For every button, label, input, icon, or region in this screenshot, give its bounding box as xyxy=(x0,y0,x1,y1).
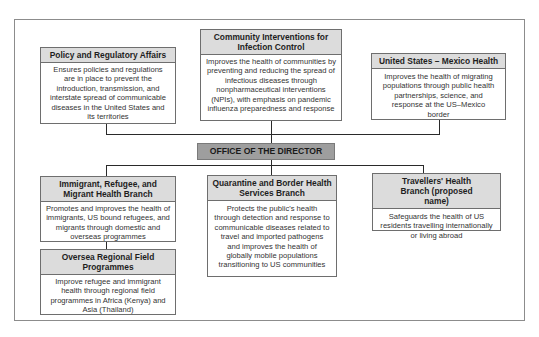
unit-title: Community Interventions for Infection Co… xyxy=(201,30,341,55)
connector-top-horizontal xyxy=(106,134,440,135)
unit-title: Policy and Regulatory Affairs xyxy=(41,48,175,63)
unit-title: Travellers' Health Branch (proposed name… xyxy=(373,174,500,209)
unit-quarantine-border-health: Quarantine and Border Health Services Br… xyxy=(207,175,337,277)
unit-policy-regulatory-affairs: Policy and Regulatory Affairs Ensures po… xyxy=(40,47,176,124)
unit-community-interventions: Community Interventions for Infection Co… xyxy=(200,29,342,121)
unit-description: Ensures policies and regulations are in … xyxy=(41,63,175,123)
connector-bottom-horizontal xyxy=(106,165,423,166)
unit-description: Improves the health of communities by pr… xyxy=(201,55,341,115)
unit-description: Promotes and improves the health of immi… xyxy=(41,202,175,244)
unit-us-mexico-health: United States – Mexico Health Improves t… xyxy=(371,53,506,120)
unit-title: Quarantine and Border Health Services Br… xyxy=(208,176,336,201)
unit-travellers-health: Travellers' Health Branch (proposed name… xyxy=(372,173,501,231)
unit-immigrant-refugee-migrant-health: Immigrant, Refugee, and Migrant Health B… xyxy=(40,176,176,242)
unit-description: Improves the health of migrating populat… xyxy=(372,69,505,122)
unit-oversea-regional-field-programmes: Oversea Regional Field Programmes Improv… xyxy=(40,249,176,315)
unit-title: Oversea Regional Field Programmes xyxy=(41,250,175,275)
unit-description: Safeguards the health of US residents tr… xyxy=(373,209,500,243)
unit-title: Immigrant, Refugee, and Migrant Health B… xyxy=(41,177,175,202)
connector-immigrant-vertical xyxy=(106,165,107,176)
unit-description: Protects the public's health through det… xyxy=(208,201,336,273)
unit-title: United States – Mexico Health xyxy=(372,54,505,69)
office-of-the-director: OFFICE OF THE DIRECTOR xyxy=(197,143,335,160)
unit-description: Improve refugee and immigrant health thr… xyxy=(41,275,175,317)
